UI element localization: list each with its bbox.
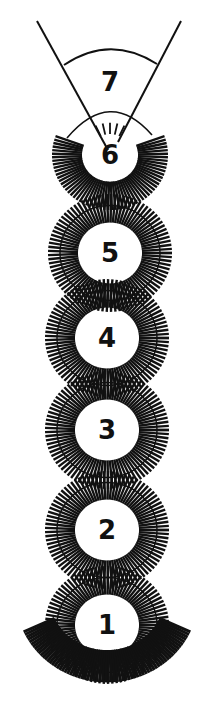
segment-label-1: 1 (98, 610, 116, 640)
segment-labels: 7 6 5 4 3 2 1 (98, 67, 119, 640)
hatched-rings (24, 123, 191, 684)
segment-label-3: 3 (98, 415, 116, 445)
segment-label-4: 4 (98, 323, 116, 353)
segment-label-6: 6 (101, 140, 119, 170)
segmented-ring-diagram: 7 6 5 4 3 2 1 (0, 0, 207, 714)
segment-label-5: 5 (101, 238, 119, 268)
segment-label-2: 2 (98, 515, 116, 545)
segment-label-7: 7 (101, 67, 119, 97)
